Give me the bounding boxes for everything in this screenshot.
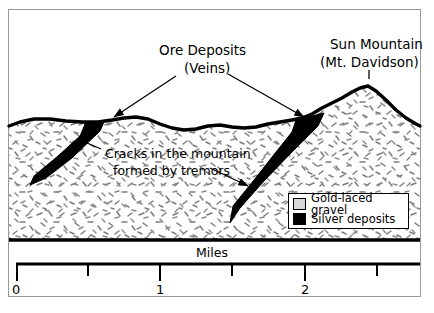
sun-mountain-label-line1: Sun Mountain	[330, 36, 423, 52]
legend-label-silver-deposits: Silver deposits	[311, 213, 395, 225]
legend-swatch-silver-deposits	[293, 213, 306, 225]
ore-deposits-label-line1: Ore Deposits	[159, 42, 246, 58]
scale-tick-label-1: 1	[156, 282, 164, 297]
scale-ticks	[17, 264, 377, 281]
legend: Gold-laced gravel Silver deposits	[288, 193, 409, 229]
scale-tick-label-0: 0	[12, 282, 20, 297]
scale-tick-label-2: 2	[301, 282, 309, 297]
cracks-label-line2: formed by tremors	[113, 163, 230, 178]
scale-unit-label: Miles	[196, 245, 228, 260]
ore-deposits-label-line2: (Veins)	[184, 60, 230, 76]
legend-item-gold-laced-gravel: Gold-laced gravel	[293, 197, 408, 211]
ore-deposits-arrow-right	[228, 74, 304, 117]
legend-swatch-gold-laced-gravel	[293, 198, 306, 210]
sun-mountain-label-line2: (Mt. Davidson)	[320, 54, 419, 70]
ore-deposits-arrow-left	[114, 76, 176, 117]
diagram-page: Ore Deposits (Veins) Sun Mountain (Mt. D…	[0, 0, 434, 313]
legend-item-silver-deposits: Silver deposits	[293, 212, 395, 226]
cracks-label-line1: Cracks in the mountain	[105, 146, 251, 161]
